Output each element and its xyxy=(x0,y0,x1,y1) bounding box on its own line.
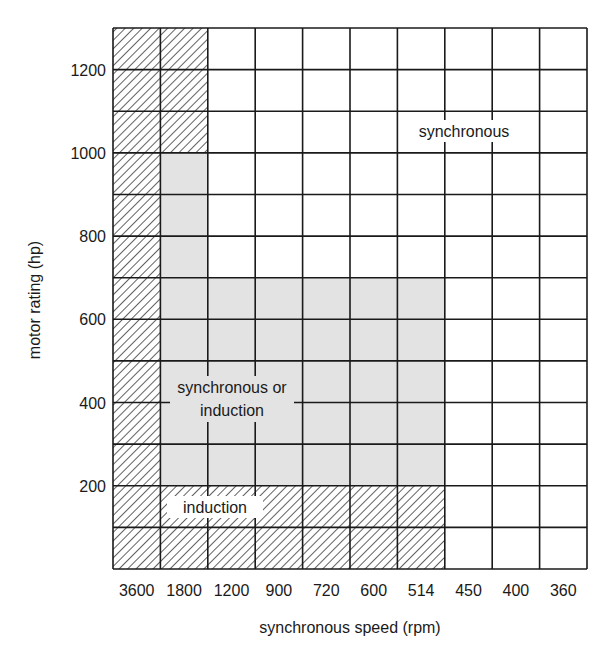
annotation-induction: induction xyxy=(183,499,247,516)
region-cell-grey xyxy=(303,278,350,486)
region-cell-grey xyxy=(350,278,397,486)
x-tick-label: 1800 xyxy=(166,582,202,599)
annotation-synchronous: synchronous xyxy=(419,123,510,140)
y-tick-label: 400 xyxy=(79,395,106,412)
region-cell-white xyxy=(492,28,539,569)
region-cell-hatched xyxy=(160,28,207,153)
x-tick-label: 400 xyxy=(503,582,530,599)
x-axis-ticks: 360018001200900720600514450400360 xyxy=(119,582,577,599)
x-tick-label: 720 xyxy=(313,582,340,599)
y-tick-label: 200 xyxy=(79,478,106,495)
y-tick-label: 1000 xyxy=(70,145,106,162)
annotation-sync-or-induction-line1: synchronous or xyxy=(177,379,287,396)
x-tick-label: 360 xyxy=(550,582,577,599)
region-cell-white xyxy=(540,28,587,569)
y-tick-label: 800 xyxy=(79,228,106,245)
x-tick-label: 450 xyxy=(455,582,482,599)
motor-selection-chart: synchronous synchronous or induction ind… xyxy=(0,0,603,645)
y-axis-ticks: 20040060080010001200 xyxy=(70,62,106,495)
region-cell-hatched xyxy=(113,28,160,569)
y-tick-label: 600 xyxy=(79,311,106,328)
x-tick-label: 3600 xyxy=(119,582,155,599)
annotation-sync-or-induction-line2: induction xyxy=(200,402,264,419)
region-cell-grey xyxy=(397,278,444,486)
x-tick-label: 600 xyxy=(360,582,387,599)
x-tick-label: 1200 xyxy=(214,582,250,599)
x-tick-label: 514 xyxy=(408,582,435,599)
y-axis-label: motor rating (hp) xyxy=(26,241,43,359)
x-axis-label: synchronous speed (rpm) xyxy=(259,619,440,636)
region-cell-white xyxy=(445,28,492,569)
x-tick-label: 900 xyxy=(266,582,293,599)
y-tick-label: 1200 xyxy=(70,62,106,79)
